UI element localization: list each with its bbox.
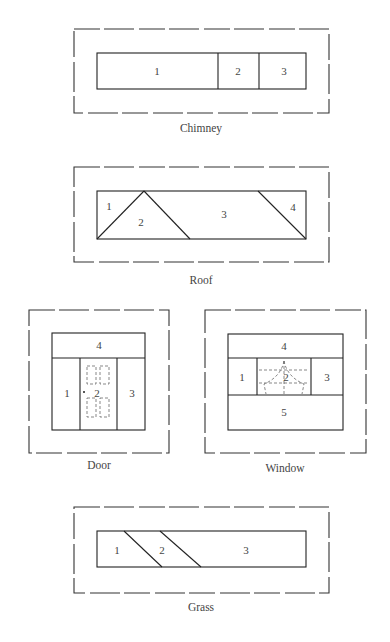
window-region-1: 1 [239, 371, 245, 383]
chimney-region-3: 3 [281, 65, 287, 77]
window-diagram: 1 2 3 4 5 Window [205, 310, 366, 474]
grass-diagram: 1 2 3 Grass [74, 507, 329, 613]
door-region-1: 1 [64, 387, 70, 399]
grass-inner-box [97, 531, 306, 567]
window-region-2: 2 [283, 371, 289, 383]
chimney-inner-box [97, 53, 306, 89]
door-diagram: 1 2 3 4 Door [29, 310, 169, 471]
door-caption: Door [87, 459, 111, 471]
roof-region-1: 1 [106, 200, 112, 212]
roof-region-3: 3 [221, 208, 227, 220]
window-caption: Window [265, 462, 305, 474]
door-region-2: 2 [94, 387, 100, 399]
grass-outer-boundary [74, 507, 329, 593]
chimney-region-2: 2 [235, 65, 241, 77]
chimney-caption: Chimney [180, 122, 222, 135]
window-region-3: 3 [324, 371, 330, 383]
door-region-3: 3 [129, 387, 135, 399]
roof-caption: Roof [190, 274, 213, 286]
grass-caption: Grass [188, 601, 215, 613]
chimney-region-1: 1 [154, 65, 160, 77]
roof-region-2: 2 [138, 216, 144, 228]
window-region-5: 5 [281, 406, 287, 418]
door-outer-boundary [29, 310, 169, 453]
roof-outer-boundary [74, 167, 329, 262]
grass-region-1: 1 [114, 544, 120, 556]
grass-region-3: 3 [243, 544, 249, 556]
window-region-4: 4 [281, 340, 287, 352]
roof-region-4: 4 [290, 201, 296, 213]
grass-region-2: 2 [159, 544, 165, 556]
roof-diagram: 1 2 3 4 Roof [74, 167, 329, 286]
door-region-4: 4 [96, 339, 102, 351]
layout-diagram-canvas: 1 2 3 Chimney 1 2 3 4 Roof 1 2 3 [0, 0, 390, 642]
chimney-diagram: 1 2 3 Chimney [74, 29, 329, 135]
chimney-outer-boundary [74, 29, 329, 113]
roof-inner-box [97, 191, 306, 239]
